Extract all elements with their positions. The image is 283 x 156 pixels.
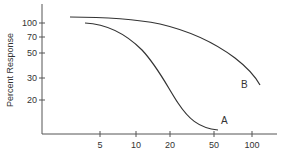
dose-response-chart: 100 70 50 30 20 5 10 20 50 100 Percent R… (0, 0, 283, 156)
y-tick-70: 70 (27, 32, 37, 42)
y-tick-30: 30 (27, 73, 37, 83)
y-tick-labels: 100 70 50 30 20 (22, 18, 37, 105)
x-tick-20: 20 (165, 140, 175, 150)
y-tick-50: 50 (27, 48, 37, 58)
y-tick-100: 100 (22, 18, 37, 28)
x-tick-5: 5 (97, 140, 102, 150)
curve-b-label: B (241, 79, 248, 90)
y-axis-label: Percent Response (5, 33, 15, 107)
curve-b (70, 17, 260, 85)
x-tick-100: 100 (244, 140, 259, 150)
curve-a (85, 23, 218, 130)
x-tick-10: 10 (131, 140, 141, 150)
x-tick-labels: 5 10 20 50 100 (97, 140, 259, 150)
curve-a-label: A (221, 115, 228, 126)
y-tick-20: 20 (27, 95, 37, 105)
x-tick-50: 50 (209, 140, 219, 150)
